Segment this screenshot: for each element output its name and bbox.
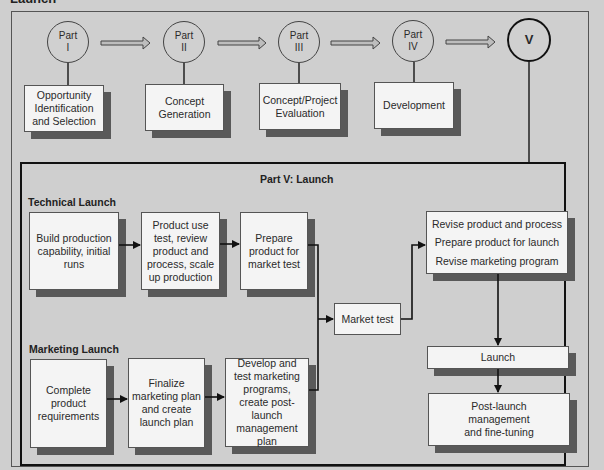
tech-step-3: Prepare product for market test [240,212,308,290]
marketing-launch-heading: Marketing Launch [29,343,119,355]
revise-line-2: Prepare product for launch [435,236,559,249]
mkt-step-3-text: Develop and test marketing programs, cre… [228,357,306,448]
arrow-right-icon [218,37,266,49]
concept-evaluation-box: Concept/Project Evaluation [259,83,341,130]
development-text: Development [383,99,445,112]
concept-generation-box: Concept Generation [145,84,224,131]
opportunity-box: Opportunity Identification and Selection [24,85,104,132]
tech-step-1-text: Build production capability, initial run… [34,232,114,271]
concept-generation-text: Concept Generation [154,95,215,121]
arrow-right-icon [446,36,495,48]
tech-step-1: Build production capability, initial run… [29,212,119,290]
revise-line-3: Revise marketing program [435,255,558,268]
post-launch-box: Post-launch management and fine-tuning [428,393,570,446]
launch-text: Launch [481,351,515,364]
revise-line-1: Revise product and process [432,218,562,231]
mkt-step-1-text: Complete product requirements [35,384,102,423]
launch-box: Launch [427,346,569,369]
market-test-box: Market test [334,303,401,335]
arrow-right-icon [101,37,150,49]
technical-launch-heading: Technical Launch [28,196,116,208]
concept-evaluation-text: Concept/Project Evaluation [260,94,340,120]
part-v-title: Part V: Launch [260,173,334,185]
post-launch-text: Post-launch management and fine-tuning [459,400,539,439]
opportunity-text: Opportunity Identification and Selection [25,89,103,128]
tech-step-3-text: Prepare product for market test [244,232,304,271]
mkt-step-2-text: Finalize marketing plan and create launc… [132,377,201,429]
mkt-step-3: Develop and test marketing programs, cre… [225,358,309,447]
mkt-step-1: Complete product requirements [30,359,107,448]
tech-step-2-text: Product use test, review product and pro… [144,219,217,284]
arrow-right-icon [331,37,380,49]
development-box: Development [374,82,454,129]
revise-box: Revise product and process Prepare produ… [426,211,568,274]
tech-step-2: Product use test, review product and pro… [141,212,220,290]
market-test-text: Market test [342,313,394,326]
mkt-step-2: Finalize marketing plan and create launc… [128,358,205,448]
